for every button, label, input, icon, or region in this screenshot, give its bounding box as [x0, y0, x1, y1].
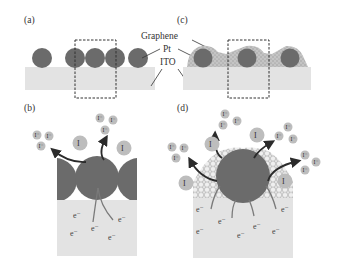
svg-text:I⁻: I⁻: [303, 152, 308, 158]
pt-particle: [238, 49, 257, 68]
iodide-ion-group: I⁻ I⁻ I⁻: [219, 110, 242, 130]
pt-particle: [194, 49, 213, 68]
ito-substrate: [25, 67, 155, 90]
electron: e⁻: [196, 227, 204, 236]
electron: e⁻: [272, 227, 280, 236]
electron: e⁻: [73, 211, 81, 220]
electron: e⁻: [108, 233, 116, 242]
svg-text:I⁻: I⁻: [47, 133, 52, 139]
panel-d: (d) I⁻ I⁻ I⁻ I⁻ I⁻ I⁻ I⁻ I⁻ I⁻ I⁻: [168, 103, 321, 258]
panel-b-label: (b): [24, 103, 35, 114]
pt-particle: [32, 48, 52, 68]
panel-b: (b) I⁻ I⁻ I⁻ I⁻ I⁻ I⁻ I I: [24, 103, 161, 256]
svg-text:I⁻: I⁻: [314, 159, 319, 165]
triiodide-ion: I: [179, 176, 194, 191]
diagram-canvas: (a) Graphene Pt ITO (c) (b): [0, 0, 341, 266]
electron: e⁻: [196, 205, 204, 214]
svg-text:I⁻: I⁻: [223, 111, 228, 117]
svg-text:I⁻: I⁻: [221, 122, 226, 128]
iodide-ion-group: I⁻ I⁻ I⁻: [168, 143, 189, 163]
pt-particle-center: [216, 149, 270, 203]
svg-text:I: I: [209, 140, 212, 149]
svg-text:I⁻: I⁻: [182, 145, 187, 151]
svg-text:I⁻: I⁻: [35, 132, 40, 138]
pt-particle: [128, 48, 148, 68]
triiodide-ion: I: [117, 141, 132, 156]
svg-text:I⁻: I⁻: [111, 117, 116, 123]
iodide-ion-group: I⁻ I⁻ I⁻: [33, 131, 54, 151]
panel-a-label: (a): [24, 15, 35, 26]
svg-text:I⁻: I⁻: [291, 136, 296, 142]
svg-text:I⁻: I⁻: [39, 143, 44, 149]
svg-text:I⁻: I⁻: [174, 155, 179, 161]
graphene-label: Graphene: [141, 31, 178, 41]
svg-text:I: I: [183, 179, 186, 188]
electron: e⁻: [253, 222, 261, 231]
svg-text:I⁻: I⁻: [303, 167, 308, 173]
svg-text:I⁻: I⁻: [103, 127, 108, 133]
svg-text:I: I: [77, 139, 80, 148]
ito-label: ITO: [160, 57, 176, 67]
electron: e⁻: [118, 215, 126, 224]
triiodide-ion: I: [278, 174, 293, 189]
iodide-ion-group: I⁻ I⁻ I⁻: [275, 123, 298, 144]
triiodide-ion: I: [73, 136, 88, 151]
reduction-arrow: [101, 138, 106, 160]
svg-text:I: I: [121, 144, 124, 153]
svg-text:I⁻: I⁻: [170, 144, 175, 150]
iodide-ion-group: I⁻ I⁻ I⁻: [96, 114, 118, 135]
triiodide-ion: I: [250, 128, 265, 143]
panel-a: (a): [24, 15, 155, 98]
pt-particle: [85, 48, 105, 68]
electron: e⁻: [281, 205, 289, 214]
pt-particle: [281, 49, 300, 68]
svg-text:I⁻: I⁻: [277, 133, 282, 139]
svg-text:I: I: [282, 177, 285, 186]
triiodide-ion: I: [205, 137, 220, 152]
electron: e⁻: [218, 217, 226, 226]
ito-substrate: [183, 67, 311, 90]
panel-c: (c): [177, 15, 311, 98]
svg-text:I⁻: I⁻: [235, 118, 240, 124]
electron: e⁻: [91, 224, 99, 233]
svg-text:I⁻: I⁻: [286, 124, 291, 130]
electron: e⁻: [237, 231, 245, 240]
panel-d-label: (d): [177, 103, 188, 114]
panel-c-label: (c): [177, 15, 188, 26]
svg-text:I: I: [254, 131, 257, 140]
pt-label: Pt: [163, 44, 171, 54]
iodide-ion-group: I⁻ I⁻ I⁻: [301, 151, 321, 175]
pt-particle: [117, 158, 161, 202]
pt-particle: [105, 48, 125, 68]
pt-particle: [33, 158, 77, 202]
svg-text:I⁻: I⁻: [98, 115, 103, 121]
electron: e⁻: [70, 229, 78, 238]
